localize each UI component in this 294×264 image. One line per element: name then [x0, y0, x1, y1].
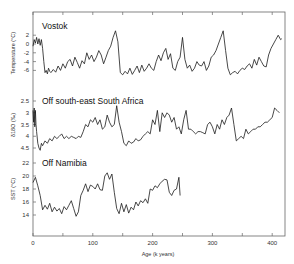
- panel-title-se-africa: Off south-east South Africa: [42, 96, 144, 106]
- series-line: [33, 173, 180, 217]
- y-axes: 20-2-4-62.533.544.52220181614: [21, 32, 36, 218]
- y-tick-label: -6: [24, 67, 30, 73]
- series-line: [33, 31, 282, 75]
- panel-title-namibia: Off Namibia: [42, 158, 87, 168]
- panel-title-vostok: Vostok: [42, 21, 68, 31]
- x-tick-label: 0: [31, 240, 35, 246]
- y-axis-title-namibia: SST (°C): [10, 178, 16, 200]
- y-tick-label: 4: [26, 133, 30, 139]
- y-tick-label: 22: [22, 160, 29, 166]
- y-tick-label: 2: [26, 32, 30, 38]
- y-axis-title-se-africa: δ18O (‰): [10, 113, 16, 137]
- y-tick-label: 4.5: [21, 145, 30, 151]
- x-tick-label: 100: [88, 240, 99, 246]
- x-axis: 0100200300400: [31, 233, 278, 246]
- y-tick-label: 2.5: [21, 98, 30, 104]
- y-tick-label: 3: [26, 110, 30, 116]
- y-tick-label: 14: [22, 212, 29, 218]
- top-axis-ticks: [33, 12, 272, 15]
- paleoclimate-chart: 0100200300400 20-2-4-62.533.544.52220181…: [0, 0, 294, 264]
- y-tick-label: 16: [22, 199, 29, 205]
- y-axis-title-vostok: Temperature (°C): [10, 32, 16, 74]
- y-tick-label: -2: [24, 50, 30, 56]
- x-tick-label: 200: [148, 240, 159, 246]
- data-series: [33, 31, 282, 217]
- y-tick-label: 0: [26, 41, 30, 47]
- y-tick-label: -4: [24, 59, 30, 65]
- y-tick-label: 3.5: [21, 122, 30, 128]
- x-tick-label: 400: [267, 240, 278, 246]
- series-line: [33, 106, 279, 151]
- x-axis-title: Age (k years): [142, 251, 175, 257]
- y-tick-label: 18: [22, 186, 29, 192]
- x-tick-label: 300: [207, 240, 218, 246]
- y-tick-label: 20: [22, 173, 29, 179]
